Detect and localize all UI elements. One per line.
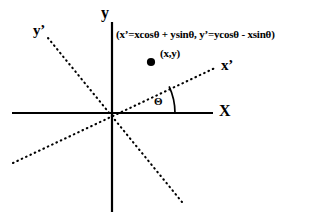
rotation-formula-label: (x’=xcosθ + ysinθ, y’=ycosθ - xsinθ): [116, 29, 275, 40]
point-coordinates-label: (x,y): [160, 48, 180, 59]
angle-arc: [169, 86, 175, 113]
y-prime-axis-label: y’: [33, 23, 45, 38]
rotation-diagram-figure: y X y’ x’ (x’=xcosθ + ysinθ, y’=ycosθ - …: [0, 0, 322, 222]
data-point-xy: [147, 58, 155, 66]
y-axis-label: y: [101, 5, 109, 21]
angle-theta-label: Θ: [154, 96, 162, 107]
x-prime-axis-label: x’: [221, 58, 233, 73]
x-axis-label: X: [219, 103, 230, 119]
x-prime-axis-line: [13, 68, 215, 163]
y-prime-axis-line: [48, 38, 182, 202]
